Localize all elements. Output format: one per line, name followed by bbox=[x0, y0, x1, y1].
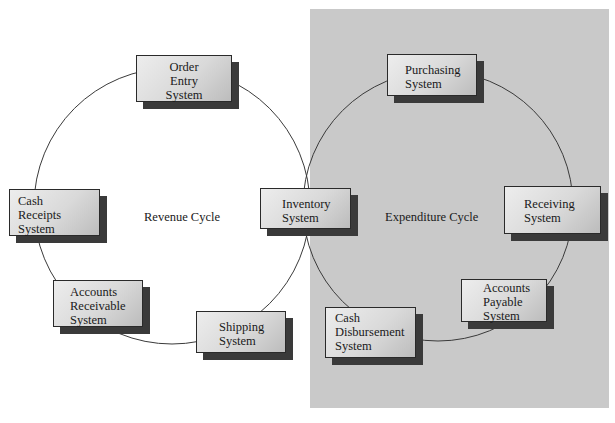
node-line: Receivable bbox=[70, 299, 134, 313]
expenditure-cycle-label: Expenditure Cycle bbox=[385, 210, 478, 225]
node-line: Payable bbox=[483, 295, 538, 309]
cash-receipts-system-box: Cash Receipts System bbox=[9, 189, 100, 236]
revenue-cycle-label: Revenue Cycle bbox=[144, 210, 220, 225]
shipping-system-box: Shipping System bbox=[196, 311, 286, 353]
order-entry-system-box: Order Entry System bbox=[136, 55, 232, 102]
accounts-receivable-system-box: Accounts Receivable System bbox=[53, 280, 143, 327]
node-line: Order bbox=[145, 60, 223, 74]
node-line: Receipts bbox=[18, 208, 91, 222]
purchasing-system-box: Purchasing System bbox=[387, 54, 477, 96]
node-line: System bbox=[405, 77, 468, 91]
node-line: Cash bbox=[335, 311, 407, 325]
node-line: Inventory bbox=[282, 197, 342, 211]
node-line: Shipping bbox=[219, 320, 277, 334]
receiving-system-box: Receiving System bbox=[504, 186, 601, 234]
node-line: System bbox=[335, 339, 407, 353]
node-line: System bbox=[70, 313, 134, 327]
node-line: System bbox=[219, 334, 277, 348]
node-line: Cash bbox=[18, 194, 91, 208]
node-line: Disbursement bbox=[335, 325, 407, 339]
inventory-system-box: Inventory System bbox=[260, 188, 351, 229]
node-line: System bbox=[483, 309, 538, 323]
cash-disbursement-system-box: Cash Disbursement System bbox=[325, 307, 416, 358]
node-line: Accounts bbox=[483, 281, 538, 295]
node-line: Purchasing bbox=[405, 63, 468, 77]
accounts-payable-system-box: Accounts Payable System bbox=[461, 279, 547, 322]
node-line: Receiving bbox=[524, 197, 592, 211]
node-line: Entry bbox=[145, 74, 223, 88]
node-line: System bbox=[524, 211, 592, 225]
node-line: System bbox=[282, 211, 342, 225]
node-line: Accounts bbox=[70, 285, 134, 299]
node-line: System bbox=[145, 88, 223, 102]
node-line: System bbox=[18, 222, 91, 236]
